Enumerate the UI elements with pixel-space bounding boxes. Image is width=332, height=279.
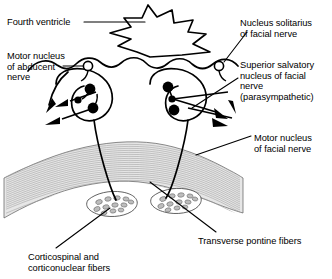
- left-corticospinal-bundle: [87, 191, 138, 216]
- leader-corticospinal: [56, 208, 110, 248]
- label-nucleus-solitarius: Nucleus solitarius of facial nerve: [240, 18, 312, 39]
- fourth-ventricle: [110, 5, 210, 57]
- right-corticospinal-bundle: [151, 188, 202, 213]
- neuron-soma: [169, 105, 180, 116]
- label-fourth-ventricle: Fourth ventricle: [7, 17, 70, 28]
- motor-nucleus-abducent-marker: [83, 61, 92, 70]
- label-superior-salvatory-nucleus: Superior salvatory nucleus of facial ner…: [240, 60, 314, 102]
- nucleus-solitarius-marker: [214, 61, 223, 70]
- leader-motor-facial: [196, 136, 251, 155]
- label-corticospinal-corticonuclear-fibers: Corticospinal and corticonuclear fibers: [28, 252, 110, 273]
- neuron-soma: [74, 96, 81, 103]
- label-motor-nucleus-abducent: Motor nucleus of abducent nerve: [7, 51, 65, 83]
- label-motor-nucleus-facial: Motor nucleus of facial nerve: [254, 133, 312, 154]
- label-transverse-pontine-fibers: Transverse pontine fibers: [198, 236, 301, 247]
